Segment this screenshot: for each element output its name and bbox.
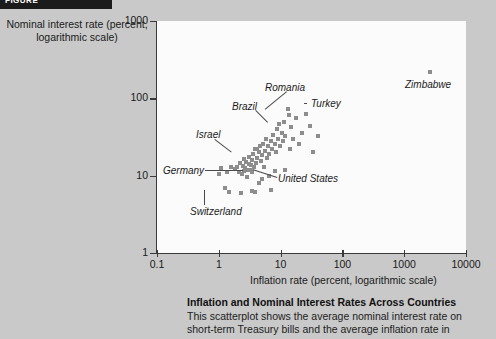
- data-point: [316, 134, 320, 138]
- data-point: [260, 153, 264, 157]
- data-point: [223, 186, 227, 190]
- data-point: [288, 147, 292, 151]
- data-point: [276, 137, 280, 141]
- data-point: [300, 131, 304, 135]
- leader-line: [204, 190, 205, 205]
- x-tick-mark: [281, 250, 282, 257]
- figure-banner-label: FIGURE: [5, 0, 38, 5]
- x-axis-line: [156, 253, 466, 254]
- annotation-switzerland: Switzerland: [190, 206, 242, 217]
- data-point: [227, 190, 231, 194]
- data-point: [289, 125, 293, 129]
- caption-body: This scatterplot shows the average nomin…: [187, 310, 490, 336]
- annotation-romania: Romania: [265, 82, 305, 93]
- x-tick-mark: [219, 250, 220, 257]
- figure-banner: FIGURE: [0, 0, 112, 9]
- x-tick-label: 10: [275, 258, 287, 270]
- data-point-zimbabwe: [428, 70, 432, 74]
- annotation-zimbabwe: Zimbabwe: [405, 79, 451, 90]
- x-tick-mark: [466, 250, 467, 257]
- annotation-brazil: Brazil: [232, 101, 257, 112]
- data-point-turkey: [304, 112, 308, 116]
- data-point: [250, 189, 254, 193]
- data-point-germany: [235, 165, 239, 169]
- x-tick-label: 100: [334, 258, 352, 270]
- data-point: [257, 181, 261, 185]
- data-point: [217, 172, 221, 176]
- data-point: [283, 168, 287, 172]
- data-point: [274, 150, 278, 154]
- data-point: [225, 170, 229, 174]
- x-tick-mark: [404, 250, 405, 257]
- annotation-united-states: United States: [278, 173, 338, 184]
- y-tick-mark: [150, 21, 156, 22]
- x-tick-mark: [157, 250, 158, 257]
- figure-caption: Inflation and Nominal Interest Rates Acr…: [187, 296, 490, 336]
- data-point: [311, 150, 315, 154]
- data-point: [297, 142, 301, 146]
- leader-line: [205, 170, 243, 171]
- data-point: [308, 124, 312, 128]
- data-point: [283, 134, 287, 138]
- x-tick-mark: [342, 250, 343, 257]
- data-point: [264, 137, 268, 141]
- data-point: [294, 116, 298, 120]
- data-point: [273, 142, 277, 146]
- data-point: [275, 127, 279, 131]
- y-tick-mark: [150, 253, 156, 254]
- data-point: [265, 156, 269, 160]
- annotation-israel: Israel: [196, 129, 220, 140]
- data-point: [269, 188, 273, 192]
- x-tick-label: 1: [216, 258, 222, 270]
- x-tick-label: 0.1: [150, 258, 165, 270]
- x-tick-label: 10000: [451, 258, 480, 270]
- data-point-romania: [286, 107, 290, 111]
- data-point: [261, 142, 265, 146]
- data-point-israel: [255, 147, 259, 151]
- x-tick-label: 1000: [393, 258, 416, 270]
- y-axis-line: [156, 21, 157, 254]
- data-point: [254, 161, 258, 165]
- data-point-switzerland: [239, 191, 243, 195]
- data-point: [271, 133, 275, 137]
- data-point: [245, 175, 249, 179]
- data-point: [262, 165, 266, 169]
- caption-title: Inflation and Nominal Interest Rates Acr…: [187, 296, 490, 309]
- data-point: [259, 159, 263, 163]
- annotation-turkey: Turkey: [311, 98, 341, 109]
- data-point: [278, 144, 282, 148]
- data-point: [291, 137, 295, 141]
- data-point: [263, 149, 267, 153]
- annotation-germany: Germany: [163, 165, 204, 176]
- data-point: [273, 169, 277, 173]
- data-point: [281, 139, 285, 143]
- data-point: [267, 152, 271, 156]
- y-tick-mark: [150, 98, 156, 99]
- leader-line: [304, 103, 307, 104]
- data-point: [287, 113, 291, 117]
- y-tick-mark: [150, 176, 156, 177]
- data-point: [282, 120, 286, 124]
- data-point-brazil: [277, 122, 281, 126]
- x-axis-title: Inflation rate (percent, logarithmic sca…: [250, 274, 437, 286]
